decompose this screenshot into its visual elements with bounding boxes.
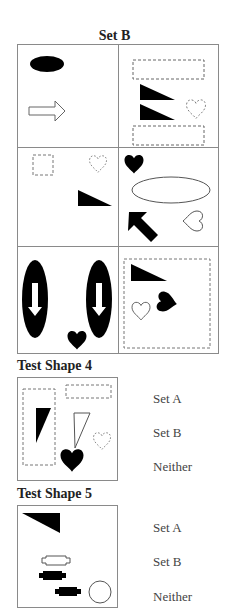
- test-shape-4-label: Test Shape 4: [17, 358, 92, 374]
- dashed-heart-icon: [94, 433, 111, 450]
- black-heart-icon: [156, 291, 179, 314]
- outline-triangle-icon: [74, 413, 90, 448]
- set-b-cell-3: [33, 155, 112, 206]
- outline-heart-icon: [183, 211, 203, 231]
- black-triangle-icon: [131, 264, 167, 281]
- hollow-right-arrow-icon: [29, 101, 65, 121]
- set-b-cell-1: [29, 56, 65, 121]
- test-shape-4-option-set-b[interactable]: Set B: [153, 425, 182, 440]
- set-b-cell-5: [22, 260, 112, 349]
- black-heart-icon: [125, 155, 144, 174]
- black-heart-icon: [61, 449, 84, 471]
- outline-heart-icon: [132, 302, 150, 320]
- outline-circle-icon: [89, 581, 111, 603]
- dashed-heart-icon: [90, 156, 107, 173]
- test-shape-5-option-set-a[interactable]: Set A: [153, 520, 182, 535]
- black-triangle-icon: [140, 104, 175, 120]
- black-triangle-icon: [78, 190, 112, 206]
- black-ellipse-icon: [30, 56, 64, 72]
- outline-ellipse-icon: [132, 177, 210, 203]
- set-b-cell-2: [133, 60, 206, 145]
- test-shape-5-label: Test Shape 5: [17, 486, 92, 502]
- test-shape-4-option-set-a[interactable]: Set A: [153, 391, 182, 406]
- test-shape-5-option-neither[interactable]: Neither: [153, 589, 192, 604]
- black-heart-icon: [68, 331, 87, 350]
- set-b-cell-4: [125, 155, 211, 242]
- dashed-square-icon: [33, 155, 53, 175]
- dashed-rectangle-icon: [133, 126, 204, 145]
- test-shape-5-figure: [18, 506, 118, 608]
- dashed-rectangle-icon: [133, 60, 204, 79]
- dashed-rectangle-icon: [66, 385, 111, 398]
- black-up-left-arrow-icon: [128, 212, 158, 242]
- black-triangle-icon: [140, 84, 175, 100]
- test-shape-4-option-neither[interactable]: Neither: [153, 459, 192, 474]
- set-b-cell-6: [124, 259, 210, 348]
- black-triangle-icon: [22, 513, 60, 533]
- figure-canvas: [0, 0, 229, 609]
- test-shape-4-figure: [18, 378, 118, 481]
- black-rounded-bar-icon: [39, 571, 66, 580]
- black-rounded-bar-icon: [55, 587, 81, 596]
- black-triangle-icon: [36, 408, 51, 443]
- test-shape-5-option-set-b[interactable]: Set B: [153, 554, 182, 569]
- dashed-heart-icon: [187, 100, 206, 119]
- outline-rounded-bar-icon: [42, 556, 70, 565]
